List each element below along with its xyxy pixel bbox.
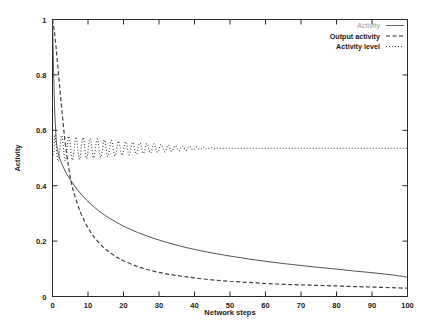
activity-decay-chart: 0102030405060708090100 00.20.40.60.81 Ne… [0, 0, 426, 329]
legend-label-activity: Activity [357, 21, 380, 30]
x-tick-label: 80 [332, 301, 340, 310]
x-tick-label: 30 [155, 301, 163, 310]
x-tick-label: 0 [50, 301, 54, 310]
y-tick-label: 0.2 [36, 237, 46, 246]
y-tick-label: 0 [42, 293, 46, 302]
y-tick-label: 0.4 [36, 182, 47, 191]
y-tick-label: 0.8 [36, 71, 46, 80]
x-tick-label: 90 [368, 301, 376, 310]
x-tick-label: 70 [297, 301, 305, 310]
x-tick-label: 10 [84, 301, 92, 310]
x-tick-label: 60 [261, 301, 269, 310]
x-axis-title: Network steps [204, 308, 255, 317]
y-axis-title: Activity [13, 144, 22, 172]
x-tick-label: 100 [401, 301, 414, 310]
legend-label-activity-level: Activity level [336, 42, 380, 51]
legend-label-output-activity: Output activity [330, 32, 380, 41]
y-tick-label: 0.6 [36, 126, 46, 135]
x-tick-label: 40 [190, 301, 198, 310]
y-tick-label: 1 [42, 16, 46, 25]
x-tick-label: 20 [119, 301, 127, 310]
